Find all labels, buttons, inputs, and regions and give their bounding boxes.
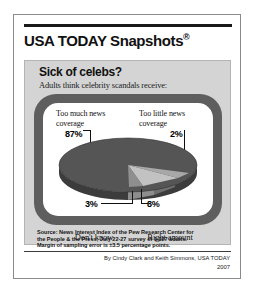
footer-divider	[24, 251, 231, 252]
pie-chart	[57, 135, 199, 203]
snapshot-card: USA TODAY Snapshots® Sick of celebs? Adu…	[13, 14, 241, 279]
registered-mark-icon: ®	[183, 32, 189, 42]
leader-line-right-amount-vertical	[141, 189, 142, 204]
pie-value-dont-know: 3%	[85, 199, 98, 209]
pie-label-too-little: Too little news coverage	[139, 109, 209, 128]
leader-line-right-amount-horizontal	[141, 203, 148, 204]
brand-title: USA TODAY Snapshots®	[24, 27, 232, 49]
source-note: Source: News Interest Index of the Pew R…	[37, 229, 221, 249]
headline: Sick of celebs?	[39, 65, 122, 79]
chart-panel: Sick of celebs? Adults think celebrity s…	[24, 60, 231, 245]
tv-bezel-frame: Too much news coverage 87% Too little ne…	[34, 94, 222, 225]
source-line-1: Source: News Interest Index of the Pew R…	[37, 229, 221, 236]
leader-line-dont-know-horizontal	[101, 203, 133, 204]
brand-title-text: USA TODAY Snapshots	[24, 32, 183, 49]
masthead: USA TODAY Snapshots®	[24, 24, 232, 49]
pie-label-too-much: Too much news coverage	[56, 109, 128, 128]
pie-value-right-amount: 8%	[147, 199, 160, 209]
subhead: Adults think celebrity scandals receive:	[39, 80, 167, 90]
byline-year: 2007	[217, 264, 230, 270]
byline: By Cindy Clark and Keith Simmons, USA TO…	[104, 255, 230, 261]
tv-screen: Too much news coverage 87% Too little ne…	[43, 103, 213, 216]
pie-chart-svg	[57, 135, 199, 203]
source-line-3: Margin of sampling error is ±3.5 percent…	[37, 242, 221, 249]
source-line-2: the People & the Press; July 22-27 surve…	[37, 236, 221, 243]
leader-line-dont-know-vertical	[132, 191, 133, 204]
